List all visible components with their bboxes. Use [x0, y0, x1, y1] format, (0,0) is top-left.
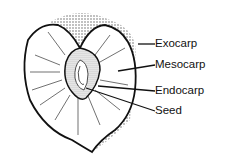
label-endocarp: Endocarp	[155, 85, 204, 97]
label-seed: Seed	[155, 105, 182, 117]
label-exocarp: Exocarp	[155, 38, 197, 50]
drupe-diagram	[0, 0, 225, 163]
label-mesocarp: Mesocarp	[155, 59, 206, 71]
